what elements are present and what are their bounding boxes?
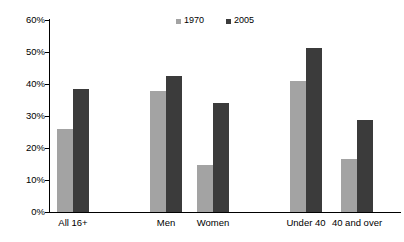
- y-tick-label: 50%: [2, 47, 45, 57]
- y-tick-label: 10%: [2, 175, 45, 185]
- x-axis-line: [49, 212, 401, 213]
- x-axis-label-all-16: All 16+: [58, 217, 87, 228]
- y-tick-label: 0%: [2, 207, 45, 217]
- x-axis-label-under-40: Under 40: [286, 217, 325, 228]
- bar-1970-women: [197, 165, 213, 212]
- bar-2005-all-16: [73, 89, 89, 212]
- bar-1970-under-40: [290, 81, 306, 212]
- plot-area: [49, 20, 400, 212]
- bar-2005-40-and-over: [357, 120, 373, 212]
- bar-1970-40-and-over: [341, 159, 357, 212]
- x-axis-label-men: Men: [157, 217, 175, 228]
- y-tick-label: 30%: [2, 111, 45, 121]
- bar-2005-men: [166, 76, 182, 212]
- bar-2005-women: [213, 103, 229, 212]
- x-axis-label-women: Women: [197, 217, 230, 228]
- y-tick-label: 60%: [2, 15, 45, 25]
- bar-1970-men: [150, 91, 166, 212]
- bar-2005-under-40: [306, 48, 322, 212]
- bar-chart: 1970 2005 0%10%20%30%40%50%60% All 16+Me…: [0, 0, 404, 242]
- y-tick-label: 20%: [2, 143, 45, 153]
- x-axis-label-40-and-over: 40 and over: [332, 217, 382, 228]
- y-tick-mark: [45, 212, 49, 213]
- bar-1970-all-16: [57, 129, 73, 212]
- y-tick-label: 40%: [2, 79, 45, 89]
